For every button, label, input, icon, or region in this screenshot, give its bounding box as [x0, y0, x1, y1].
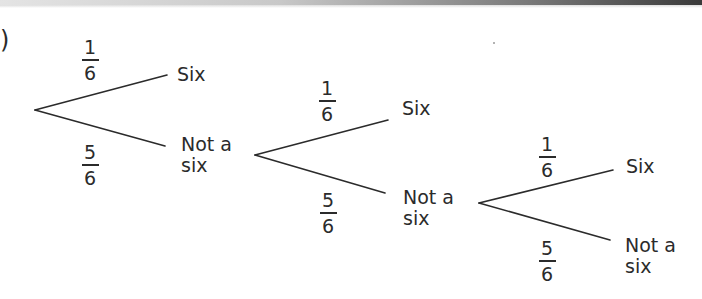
numerator: 5 — [84, 142, 96, 162]
outcome-line: Not a — [403, 187, 454, 208]
outcome-line: Six — [177, 64, 206, 85]
outcome-line: six — [403, 208, 454, 229]
denominator: 6 — [321, 104, 333, 124]
outcome-line: Not a — [181, 134, 232, 155]
probability-stage2-not-six: 5 6 — [318, 190, 338, 236]
denominator: 6 — [541, 264, 553, 284]
probability-stage1-six: 1 6 — [80, 37, 100, 83]
outcome-line: six — [625, 256, 676, 277]
fraction-bar — [320, 212, 337, 214]
numerator: 5 — [322, 190, 334, 210]
denominator: 6 — [84, 168, 96, 188]
outcome-stage2-six: Six — [402, 98, 431, 119]
outcome-line: Six — [402, 98, 431, 119]
numerator: 1 — [84, 37, 96, 57]
outcome-line: six — [181, 155, 232, 176]
outcome-stage1-not-six: Not a six — [181, 134, 232, 176]
denominator: 6 — [322, 216, 334, 236]
fraction-bar — [82, 164, 99, 166]
outcome-line: Not a — [625, 235, 676, 256]
outcome-stage2-not-six: Not a six — [403, 187, 454, 229]
outcome-stage1-six: Six — [177, 64, 206, 85]
branch-stage2-not-six — [255, 155, 385, 193]
stray-mark — [493, 42, 495, 44]
probability-stage3-not-six: 5 6 — [537, 238, 557, 284]
denominator: 6 — [84, 63, 96, 83]
fraction-bar — [319, 100, 336, 102]
branch-stage2-six — [255, 120, 388, 155]
numerator: 5 — [541, 238, 553, 258]
probability-stage3-six: 1 6 — [537, 134, 557, 180]
fraction-bar — [82, 59, 99, 61]
outcome-stage3-not-six: Not a six — [625, 235, 676, 277]
numerator: 1 — [541, 134, 553, 154]
probability-stage1-not-six: 5 6 — [80, 142, 100, 188]
fraction-bar — [539, 156, 556, 158]
probability-stage2-six: 1 6 — [317, 78, 337, 124]
branch-stage3-not-six — [479, 203, 610, 240]
outcome-line: Six — [626, 156, 655, 177]
fraction-bar — [539, 260, 556, 262]
branch-stage1-six — [35, 75, 167, 110]
tree-branches — [0, 0, 702, 299]
branch-stage1-not-six — [35, 110, 165, 146]
outcome-stage3-six: Six — [626, 156, 655, 177]
denominator: 6 — [541, 160, 553, 180]
numerator: 1 — [321, 78, 333, 98]
